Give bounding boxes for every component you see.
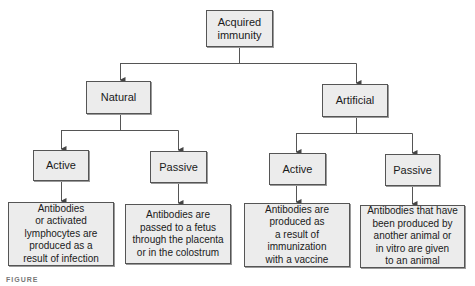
- node-label-line1: Acquired: [217, 16, 261, 29]
- desc-line: or in the colostrum: [132, 247, 223, 260]
- node-label: Active: [283, 163, 313, 176]
- node-label: Artificial: [336, 94, 375, 107]
- node-acquired-immunity: Acquired immunity: [206, 10, 273, 47]
- node-label: Passive: [393, 164, 432, 177]
- node-artificial: Artificial: [322, 84, 388, 117]
- desc-line: Antibodies that have: [367, 205, 458, 218]
- desc-line: immunization: [265, 241, 329, 254]
- node-label: Passive: [159, 161, 198, 174]
- desc-artificial-passive: Antibodies that have been produced by an…: [360, 205, 465, 268]
- node-label: Active: [46, 159, 76, 172]
- desc-line: passed to a fetus: [132, 222, 223, 235]
- figure-caption: FIGURE: [6, 276, 38, 283]
- desc-artificial-active: Antibodies are produced as a result of i…: [244, 203, 350, 267]
- desc-natural-active: Antibodies or activated lymphocytes are …: [8, 202, 114, 266]
- desc-line: in vitro are given: [367, 243, 458, 256]
- desc-line: lymphocytes are: [23, 228, 99, 241]
- node-label: Natural: [101, 91, 136, 104]
- desc-line: or activated: [23, 215, 99, 228]
- desc-line: produced as: [265, 216, 329, 229]
- node-artificial-passive: Passive: [385, 154, 440, 186]
- node-artificial-active: Active: [269, 153, 326, 185]
- desc-line: result of infection: [23, 253, 99, 266]
- desc-natural-passive: Antibodies are passed to a fetus through…: [125, 204, 231, 264]
- desc-line: another animal or: [367, 230, 458, 243]
- node-natural-passive: Passive: [150, 151, 207, 183]
- desc-line: Antibodies: [23, 203, 99, 216]
- node-natural: Natural: [86, 81, 151, 114]
- node-label-line2: immunity: [217, 29, 261, 42]
- desc-line: Antibodies are: [132, 209, 223, 222]
- desc-line: produced as a: [23, 240, 99, 253]
- desc-line: through the placenta: [132, 234, 223, 247]
- desc-line: Antibodies are: [265, 204, 329, 217]
- desc-line: been produced by: [367, 218, 458, 231]
- desc-line: with a vaccine: [265, 254, 329, 267]
- node-natural-active: Active: [33, 150, 89, 181]
- desc-line: a result of: [265, 229, 329, 242]
- desc-line: to an animal: [367, 255, 458, 268]
